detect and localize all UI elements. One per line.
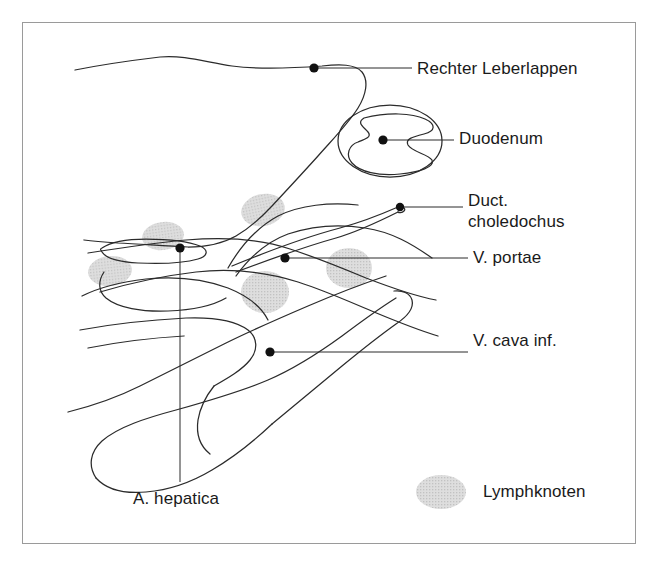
lymph-node [87, 254, 134, 288]
label-duct-choledochus: Duct. choledochus [468, 190, 618, 232]
marker-dot-v-portae[interactable] [280, 253, 289, 262]
label-a-hepatica: A. hepatica [133, 488, 219, 509]
figure-root: Rechter Leberlappen Duodenum Duct. chole… [0, 0, 657, 566]
vena-cava-right-border-path [272, 291, 412, 424]
lower-liver-edge-path [88, 336, 184, 348]
marker-dot-duct-choledochus[interactable] [396, 203, 404, 211]
marker-dot-duodenum[interactable] [378, 135, 387, 144]
label-duct-choledochus-line1: Duct. [468, 190, 618, 211]
leader-line-group [180, 68, 468, 482]
vena-cava-left-tip-path [96, 424, 272, 492]
hepatoduodenal-lower-fold-path [80, 318, 256, 386]
legend-swatch-lymphknoten [416, 475, 466, 509]
label-v-portae: V. portae [473, 247, 541, 268]
marker-dot-rechter-leberlappen[interactable] [309, 63, 318, 72]
label-rechter-leberlappen: Rechter Leberlappen [417, 58, 578, 79]
lymph-node-group [87, 190, 372, 313]
lymph-node [238, 190, 288, 230]
lymph-node [326, 248, 372, 288]
marker-dot-v-cava-inf[interactable] [265, 347, 274, 356]
label-v-cava-inf: V. cava inf. [473, 330, 557, 351]
label-duodenum: Duodenum [459, 128, 543, 149]
liver-outline-path [75, 57, 366, 247]
duodenum-outer-wall [338, 105, 442, 177]
legend-label-lymphknoten: Lymphknoten [483, 481, 586, 502]
duodenum-lumen-path [348, 114, 433, 175]
label-duct-choledochus-line2: choledochus [468, 211, 618, 232]
cava-interior-fold-path [198, 386, 215, 454]
marker-dot-a-hepatica[interactable] [175, 243, 184, 252]
